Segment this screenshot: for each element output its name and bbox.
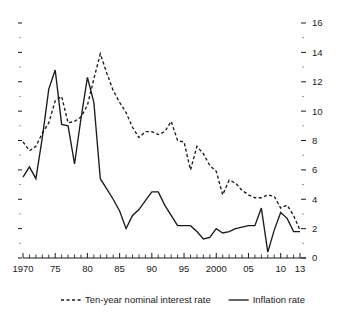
x-axis-tick-label: 80: [82, 263, 93, 274]
right-axis-tick-label: 14: [312, 47, 323, 58]
right-axis-tick-label: 2: [312, 223, 317, 234]
right-axis-tick-label: 0: [312, 252, 317, 263]
chart-container: 0246810121416197075808590952000051013Ten…: [0, 0, 348, 322]
x-axis-tick-label: 10: [275, 263, 286, 274]
x-axis-tick-label: 13: [295, 263, 306, 274]
series-line-nominal-interest-rate: [23, 54, 300, 230]
series-line-inflation-rate: [23, 70, 300, 252]
right-axis-tick-label: 12: [312, 76, 323, 87]
right-axis-tick-label: 6: [312, 164, 317, 175]
x-axis-tick-label: 85: [114, 263, 125, 274]
x-axis-tick-label: 75: [50, 263, 61, 274]
line-chart: 0246810121416197075808590952000051013Ten…: [0, 0, 348, 322]
right-axis-tick-label: 8: [312, 135, 317, 146]
right-axis-tick-label: 16: [312, 17, 323, 28]
x-axis-tick-label: 1970: [12, 263, 33, 274]
right-axis-tick-label: 4: [312, 194, 317, 205]
x-axis-tick-label: 2000: [206, 263, 227, 274]
legend-label: Ten-year nominal interest rate: [85, 294, 211, 305]
x-axis-tick-label: 90: [147, 263, 158, 274]
x-axis-tick-label: 95: [179, 263, 190, 274]
right-axis-tick-label: 10: [312, 106, 323, 117]
legend-label: Inflation rate: [253, 294, 305, 305]
x-axis-tick-label: 05: [243, 263, 254, 274]
